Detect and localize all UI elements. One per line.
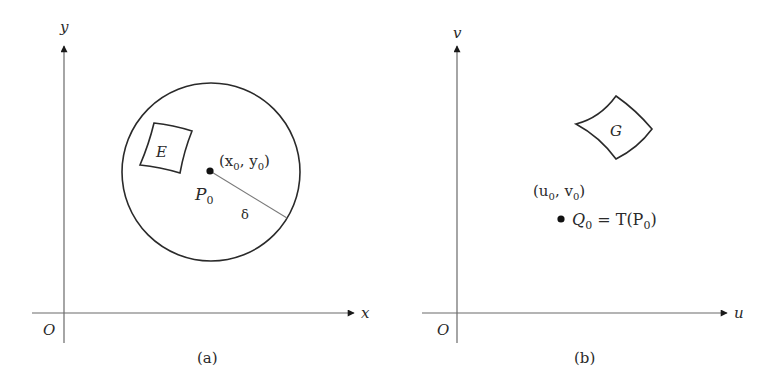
region-g-label: G (610, 122, 622, 140)
point-q0-label: Q0 = T(P0) (572, 210, 657, 232)
origin-label: O (437, 321, 449, 339)
panel-a-caption: (a) (197, 349, 218, 367)
y-axis-label: y (59, 18, 69, 36)
transformation-diagram: y x O E P0 (x0, y0) δ (a) v u O G (u0, v… (0, 0, 767, 386)
point-p0-coordinates: (x0, y0) (219, 152, 270, 172)
u-axis-label: u (734, 304, 744, 322)
point-q0-dot (557, 215, 564, 222)
panel-b: v u O G (u0, v0) Q0 = T(P0) (b) (422, 24, 744, 367)
point-p0-dot (206, 167, 213, 174)
panel-b-caption: (b) (574, 349, 595, 367)
radius-delta-label: δ (241, 207, 249, 222)
point-q0-coordinates: (u0, v0) (533, 182, 585, 202)
point-p0-label: P0 (194, 184, 213, 207)
region-e-label: E (155, 143, 167, 161)
x-axis-label: x (361, 304, 370, 322)
origin-label: O (43, 321, 55, 339)
v-axis-label: v (453, 24, 462, 42)
panel-a: y x O E P0 (x0, y0) δ (a) (32, 18, 370, 367)
